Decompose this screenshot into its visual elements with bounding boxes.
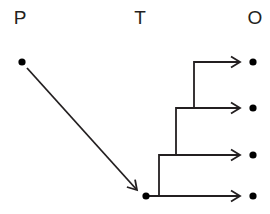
node-dot — [249, 192, 256, 199]
edge-line — [27, 68, 136, 189]
nodes-group — [18, 58, 256, 199]
edge-line — [159, 155, 239, 196]
node-dot — [249, 104, 256, 111]
node-dot — [249, 151, 256, 158]
diagram-graphics — [0, 0, 270, 214]
node-dot — [249, 58, 256, 65]
edge-line — [176, 108, 239, 155]
node-dot — [142, 192, 149, 199]
edge-line — [194, 62, 239, 108]
node-dot — [18, 58, 25, 65]
diagram-canvas: P T O — [0, 0, 270, 214]
edges-group — [27, 57, 240, 202]
